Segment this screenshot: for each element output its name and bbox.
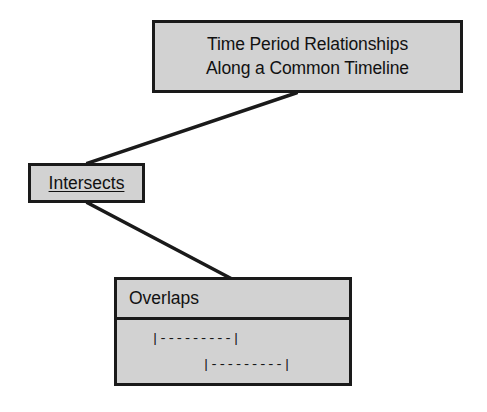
node-overlaps[interactable]: Overlaps |---------| |---------|	[114, 277, 352, 386]
intersects-label: Intersects	[49, 173, 125, 194]
title-line-1: Time Period Relationships	[207, 33, 408, 56]
overlaps-body: |---------| |---------|	[117, 320, 349, 383]
connector-title-to-intersects	[88, 93, 296, 163]
overlaps-label: Overlaps	[129, 288, 199, 309]
timeline-interval-first: |---------|	[151, 332, 240, 346]
node-time-period-relationships[interactable]: Time Period Relationships Along a Common…	[152, 20, 463, 93]
title-line-2: Along a Common Timeline	[206, 57, 409, 80]
timeline-interval-second: |---------|	[202, 358, 291, 372]
connector-intersects-to-overlaps	[88, 203, 230, 278]
node-intersects[interactable]: Intersects	[28, 163, 145, 203]
diagram-canvas: Time Period Relationships Along a Common…	[0, 0, 487, 412]
overlaps-header: Overlaps	[117, 280, 349, 320]
